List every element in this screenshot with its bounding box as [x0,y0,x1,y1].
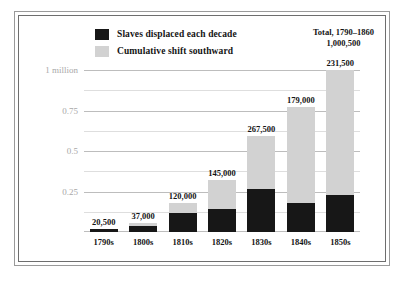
bar-segment-displaced [326,195,354,232]
y-axis-tick-label: 0.75 [62,106,78,116]
x-axis-tick-label: 1830s [251,237,271,247]
x-axis-tick-label: 1790s [94,237,114,247]
y-axis-tick-label: 1 million [45,65,78,75]
bar-value-label: 20,500 [92,217,115,227]
x-axis-tick-label: 1850s [330,237,350,247]
bar-segment-displaced [247,189,275,232]
bar-group: 267,5001830s [247,136,275,232]
y-axis-tick-label: 0.25 [62,187,78,197]
total-annotation-line2: 1,000,500 [313,38,374,49]
plot-area: 0.250.50.751 million20,5001790s37,000180… [84,70,360,232]
bar-group: 179,0001840s [287,107,315,232]
total-annotation: Total, 1790–1860 1,000,500 [313,27,374,48]
bar-group: 120,0001810s [169,203,197,232]
bar-value-label: 231,500 [326,58,354,68]
bar-group: 231,5001850s [326,70,354,232]
legend-item-label: Slaves displaced each decade [117,29,237,39]
bar-group: 145,0001820s [208,180,236,232]
gridline-major [84,111,360,112]
gridline-minor [84,90,360,91]
bar-group: 20,5001790s [90,229,118,232]
gridline-minor [84,131,360,132]
gridline-major [84,151,360,152]
x-axis-tick-label: 1840s [291,237,311,247]
bar-value-label: 267,500 [248,124,276,134]
x-axis-tick-label: 1810s [172,237,192,247]
legend-item-label: Cumulative shift southward [117,46,233,56]
legend-item: Cumulative shift southward [95,44,237,58]
y-axis-tick-label: 0.5 [67,146,78,156]
bar-segment-displaced [208,209,236,232]
chart-legend: Slaves displaced each decadeCumulative s… [95,27,237,61]
plot-container: Slaves displaced each decadeCumulative s… [18,15,386,262]
bar-value-label: 120,000 [169,191,197,201]
bar-group: 37,0001800s [129,223,157,232]
bar-value-label: 37,000 [131,211,154,221]
bar-segment-displaced [129,226,157,232]
legend-item: Slaves displaced each decade [95,27,237,41]
bar-value-label: 145,000 [208,168,236,178]
legend-swatch-icon [95,46,109,57]
x-axis-tick-label: 1820s [212,237,232,247]
bar-value-label: 179,000 [287,95,315,105]
gridline-major [84,70,360,71]
legend-swatch-icon [95,29,109,40]
chart-figure: Slaves displaced each decadeCumulative s… [0,0,404,283]
bar-segment-displaced [169,213,197,232]
bar-segment-displaced [90,229,118,232]
bar-segment-displaced [287,203,315,232]
x-axis-tick-label: 1800s [133,237,153,247]
total-annotation-line1: Total, 1790–1860 [313,27,374,38]
